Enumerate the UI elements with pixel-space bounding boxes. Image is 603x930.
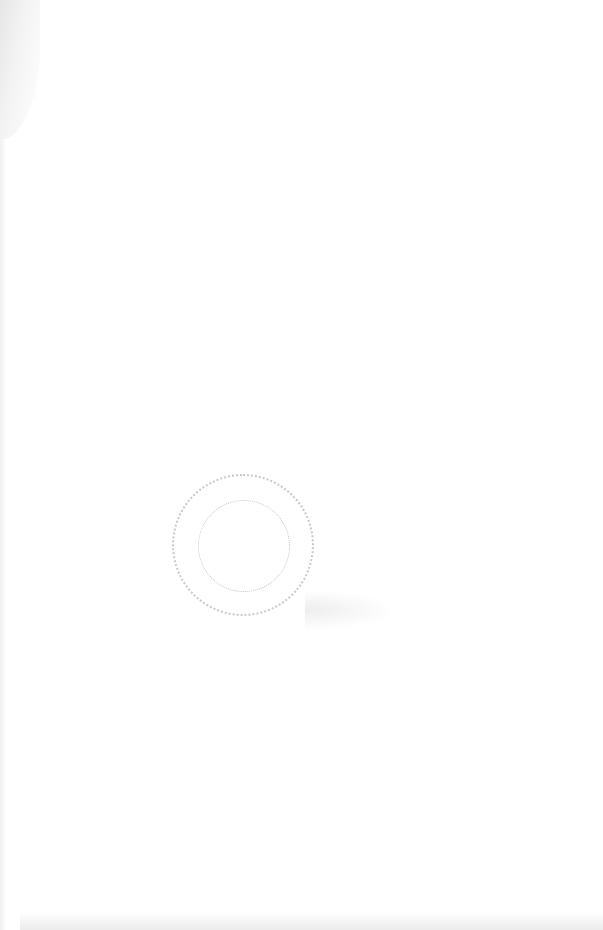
stamp-text-ring [174,476,312,614]
page-bottom-edge [20,912,603,930]
stamp-smudge [305,590,395,630]
scanned-page [0,0,603,930]
round-stamp [172,474,314,616]
page-left-edge [0,140,6,930]
page-corner-shadow [0,0,40,140]
